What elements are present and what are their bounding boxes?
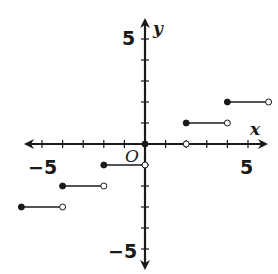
open-endpoint [183, 141, 189, 147]
closed-endpoint [101, 162, 107, 168]
open-endpoint [60, 204, 66, 210]
open-endpoint [142, 162, 148, 168]
x-axis-label: x [249, 119, 261, 139]
y-axis-label: y [152, 18, 164, 38]
origin-label: O [125, 146, 139, 166]
closed-endpoint [183, 120, 189, 126]
y-tick-label-5: 5 [122, 27, 135, 49]
open-endpoint [101, 183, 107, 189]
open-endpoint [266, 99, 272, 105]
open-endpoint [224, 120, 230, 126]
step-function-graph: −5 5 5 −5 y x O [0, 0, 278, 274]
closed-endpoint [142, 141, 148, 147]
closed-endpoint [224, 99, 230, 105]
closed-endpoint [60, 183, 66, 189]
closed-endpoint [18, 204, 24, 210]
y-tick-label-neg5: −5 [108, 240, 137, 262]
x-tick-label-5: 5 [240, 156, 253, 178]
x-tick-label-neg5: −5 [28, 156, 57, 178]
